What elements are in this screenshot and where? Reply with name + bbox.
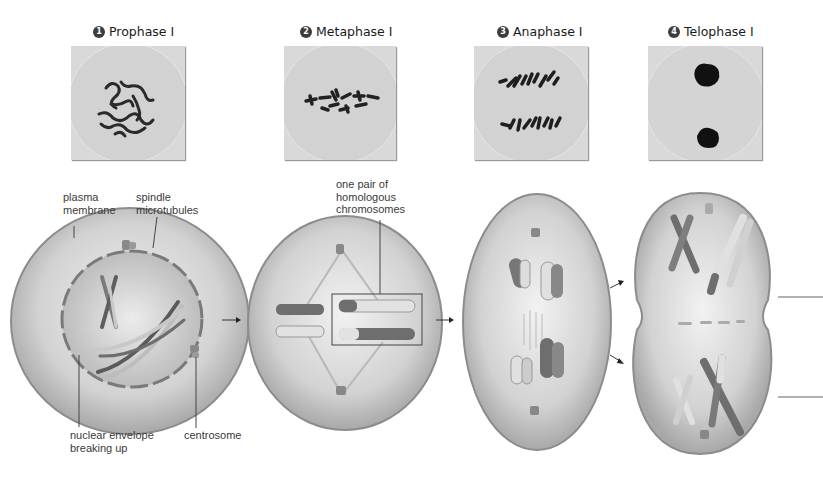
label-spindle-microtubules: spindle microtubules: [136, 191, 198, 216]
label-line: centrosome: [184, 429, 241, 442]
label-homologous-pair: one pair of homologous chromosomes: [336, 178, 405, 216]
label-plasma-membrane: plasma membrane: [63, 191, 116, 216]
label-line: membrane: [63, 204, 116, 217]
metaphase-cell: [248, 216, 442, 430]
label-nuclear-envelope: nuclear envelope breaking up: [70, 429, 154, 454]
label-line: plasma: [63, 191, 116, 204]
label-line: breaking up: [70, 442, 154, 455]
label-line: nuclear envelope: [70, 429, 154, 442]
meiosis-diagram: [0, 0, 823, 477]
anaphase-cell: [463, 194, 611, 450]
label-centrosome: centrosome: [184, 429, 241, 442]
label-line: microtubules: [136, 204, 198, 217]
label-line: spindle: [136, 191, 198, 204]
telophase-cell: [633, 193, 823, 454]
prophase-cell: [11, 208, 249, 434]
arrow-icon: [610, 280, 624, 364]
label-line: chromosomes: [336, 203, 405, 216]
label-line: homologous: [336, 191, 405, 204]
label-line: one pair of: [336, 178, 405, 191]
